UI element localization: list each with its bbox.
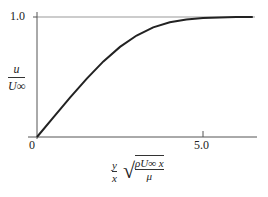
sqrt-num: ρU∞ x: [135, 157, 164, 169]
y-axis-label: u U∞: [8, 62, 25, 94]
velocity-curve: [37, 17, 253, 137]
x-axis-label: y x √ ρU∞ x μ: [112, 158, 164, 184]
sqrt-den: μ: [135, 169, 164, 182]
chart: 1.0 0 5.0 u U∞ y x √ ρU∞ x μ: [0, 0, 268, 197]
y-label-den: U∞: [8, 77, 25, 94]
x-label-den: x: [112, 171, 117, 184]
y-tick-label: 1.0: [10, 9, 25, 24]
x-label-num: y: [112, 159, 117, 171]
y-label-num: u: [8, 62, 25, 77]
x-tick-label-five: 5.0: [194, 138, 209, 153]
x-tick-label-zero: 0: [29, 138, 35, 153]
